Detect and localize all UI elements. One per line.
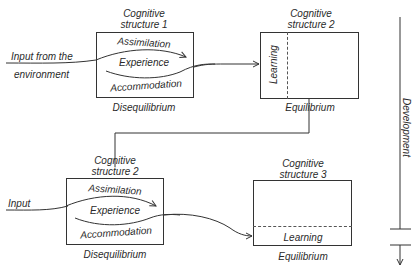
input-label-bottom: Input bbox=[8, 198, 30, 209]
structure1-experience-label: Experience bbox=[119, 57, 169, 68]
structure3-learning-divider bbox=[253, 226, 352, 227]
structure3-state-label: Equilibrium bbox=[278, 251, 327, 262]
structure2-bottom-state-label: Disequilibrium bbox=[84, 249, 147, 260]
structure3-title-line1: Cognitive bbox=[282, 158, 324, 169]
structure2-top-learning-divider bbox=[287, 32, 288, 99]
structure2-bottom-title-line2: structure 2 bbox=[91, 166, 138, 177]
structure1-state-label: Disequilibrium bbox=[113, 102, 176, 113]
development-axis-label: Development bbox=[401, 98, 412, 157]
structure2-top-title-line1: Cognitive bbox=[290, 8, 332, 19]
flow-arrow-to-structure3 bbox=[164, 214, 252, 236]
structure3-title-line2: structure 3 bbox=[279, 169, 326, 180]
structure2-bottom-title-line1: Cognitive bbox=[94, 155, 136, 166]
input-label-line2: environment bbox=[14, 69, 69, 80]
structure1-title-line2: structure 1 bbox=[120, 19, 167, 30]
structure2-top-title-line2: structure 2 bbox=[287, 19, 334, 30]
input-label-line1: Input from the bbox=[11, 51, 73, 62]
structure2-top-state-label: Equilibrium bbox=[285, 102, 334, 113]
flow-arrow-to-structure2 bbox=[194, 64, 259, 67]
structure2-bottom-experience-label: Experience bbox=[90, 205, 140, 216]
structure3-learning-label: Learning bbox=[284, 232, 323, 243]
structure2-top-learning-label: Learning bbox=[268, 45, 279, 84]
structure1-title-line1: Cognitive bbox=[123, 8, 165, 19]
